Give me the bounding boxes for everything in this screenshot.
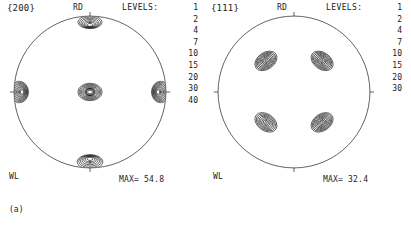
level-value: 40 xyxy=(176,95,198,107)
pole-figure-figure: {200} RD LEVELS: 1 2 4 7 10 15 20 30 40 … xyxy=(0,0,411,225)
level-value: 30 xyxy=(176,83,198,95)
wl-direction-label-a: WL xyxy=(9,172,19,181)
pole-figure-panel-a: {200} RD LEVELS: 1 2 4 7 10 15 20 30 40 … xyxy=(0,0,205,200)
level-value: 7 xyxy=(176,37,198,49)
level-value: 10 xyxy=(380,48,402,60)
level-value: 1 xyxy=(380,2,402,14)
pole-figure-plot-b xyxy=(212,10,376,174)
subfigure-caption-a: (a) xyxy=(9,205,23,214)
level-value: 4 xyxy=(380,25,402,37)
pole-figure-panel-b: {111} RD LEVELS: 1 2 4 7 10 15 20 30 WL … xyxy=(204,0,409,200)
levels-list-a: 1 2 4 7 10 15 20 30 40 xyxy=(176,2,198,106)
level-value: 30 xyxy=(380,83,402,95)
level-value: 20 xyxy=(380,72,402,84)
max-intensity-label-a: MAX= 54.8 xyxy=(119,175,164,184)
level-value: 4 xyxy=(176,25,198,37)
wl-direction-label-b: WL xyxy=(213,172,223,181)
level-value: 20 xyxy=(176,72,198,84)
pole-figure-plot-a xyxy=(8,10,172,174)
level-value: 10 xyxy=(176,48,198,60)
level-value: 7 xyxy=(380,37,402,49)
levels-list-b: 1 2 4 7 10 15 20 30 xyxy=(380,2,402,95)
max-intensity-label-b: MAX= 32.4 xyxy=(323,175,368,184)
level-value: 15 xyxy=(176,60,198,72)
level-value: 2 xyxy=(380,14,402,26)
level-value: 1 xyxy=(176,2,198,14)
level-value: 15 xyxy=(380,60,402,72)
level-value: 2 xyxy=(176,14,198,26)
